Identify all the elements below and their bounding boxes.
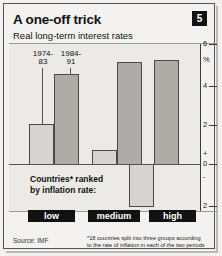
- chart-figure: A one-off trick 5 Real long-term interes…: [0, 0, 222, 256]
- y-axis-line: [200, 44, 201, 212]
- y-axis-minus-sign: -: [203, 172, 217, 181]
- y-axis-unit-label: %: [203, 55, 217, 64]
- bar-low-1974-83: [29, 124, 54, 165]
- bar-high-1984-91: [154, 60, 179, 165]
- legend-item-1974-83-bottom: 83: [30, 58, 56, 67]
- y-tick-label-neg2: 2: [203, 201, 217, 210]
- source-label: Source: IMF: [13, 237, 48, 244]
- rank-annotation-line1: Countries* ranked: [30, 174, 103, 185]
- bar-medium-1974-83: [92, 150, 117, 165]
- legend-leader-line-1974-83: [42, 68, 43, 124]
- bar-medium-1984-91: [117, 62, 142, 165]
- y-tick-label-0: 0: [203, 159, 217, 168]
- category-label-high: high: [149, 210, 196, 222]
- y-tick-label-6: 6: [203, 39, 217, 48]
- footnote: *18 countries split into three groups ac…: [87, 235, 215, 248]
- legend-leader-line-1984-91: [70, 68, 71, 74]
- chart-number-badge: 5: [192, 11, 207, 26]
- footnote-line1: *18 countries split into three groups ac…: [87, 235, 215, 242]
- y-tick-label-4: 4: [203, 81, 217, 90]
- y-axis-plus-sign: +: [203, 149, 217, 158]
- footnote-line2: to the rate of inflation in each of the …: [87, 242, 215, 249]
- zero-line: [9, 164, 200, 165]
- y-tick-label-2: 2: [203, 120, 217, 129]
- frame-shadow-bottom: [6, 251, 218, 253]
- rank-annotation: Countries* ranked by inflation rate:: [30, 174, 103, 195]
- bar-high-1974-83: [129, 164, 154, 207]
- chart-subtitle: Real long-term interest rates: [13, 30, 133, 41]
- category-label-medium: medium: [88, 210, 140, 222]
- rank-annotation-line2: by inflation rate:: [30, 185, 103, 196]
- legend-item-1984-91-bottom: 91: [58, 58, 84, 67]
- chart-frame: A one-off trick 5 Real long-term interes…: [3, 3, 215, 249]
- category-label-low: low: [28, 210, 75, 222]
- bar-low-1984-91: [54, 74, 79, 165]
- page-title: A one-off trick: [13, 12, 101, 27]
